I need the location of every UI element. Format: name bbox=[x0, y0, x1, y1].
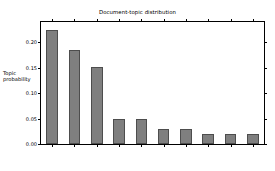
y-tick-mark bbox=[264, 42, 267, 43]
x-tick-mark bbox=[208, 19, 209, 22]
bar bbox=[180, 129, 192, 144]
y-tick-mark bbox=[38, 119, 41, 120]
x-tick-mark bbox=[186, 19, 187, 22]
bar bbox=[46, 30, 58, 144]
plot-area: 0.000.050.100.150.20AutomobileArtificial… bbox=[40, 21, 265, 145]
x-tick-mark bbox=[74, 19, 75, 22]
bar bbox=[113, 119, 125, 144]
x-tick-mark bbox=[141, 144, 142, 147]
bar bbox=[136, 119, 148, 144]
y-tick-label: 0.20 bbox=[26, 39, 37, 45]
y-tick-label: 0.00 bbox=[26, 141, 37, 147]
y-axis-label: Topic probability bbox=[3, 70, 37, 82]
x-tick-mark bbox=[253, 19, 254, 22]
chart-title: Document-topic distribution bbox=[0, 9, 275, 15]
x-tick-mark bbox=[97, 144, 98, 147]
y-tick-mark bbox=[38, 93, 41, 94]
y-tick-label: 0.10 bbox=[26, 90, 37, 96]
x-tick-mark bbox=[253, 144, 254, 147]
y-tick-label: 0.05 bbox=[26, 116, 37, 122]
y-tick-label: 0.15 bbox=[26, 65, 37, 71]
bar bbox=[202, 134, 214, 144]
x-tick-mark bbox=[231, 19, 232, 22]
x-tick-mark bbox=[231, 144, 232, 147]
x-tick-mark bbox=[164, 144, 165, 147]
bar bbox=[247, 134, 259, 144]
bar bbox=[91, 67, 103, 144]
bar bbox=[69, 50, 81, 144]
y-tick-mark bbox=[38, 42, 41, 43]
bar bbox=[225, 134, 237, 144]
chart-figure: Document-topic distribution Topic probab… bbox=[0, 0, 275, 171]
x-tick-mark bbox=[52, 19, 53, 22]
y-tick-mark bbox=[264, 144, 267, 145]
plot-inner: 0.000.050.100.150.20AutomobileArtificial… bbox=[41, 22, 264, 144]
y-tick-mark bbox=[38, 68, 41, 69]
x-tick-mark bbox=[186, 144, 187, 147]
y-tick-mark bbox=[264, 68, 267, 69]
x-tick-mark bbox=[141, 19, 142, 22]
x-tick-mark bbox=[208, 144, 209, 147]
x-tick-mark bbox=[119, 144, 120, 147]
bar bbox=[158, 129, 170, 144]
y-tick-mark bbox=[38, 144, 41, 145]
x-tick-mark bbox=[119, 19, 120, 22]
y-tick-mark bbox=[264, 93, 267, 94]
x-tick-mark bbox=[97, 19, 98, 22]
x-tick-mark bbox=[164, 19, 165, 22]
y-tick-mark bbox=[264, 119, 267, 120]
x-tick-mark bbox=[52, 144, 53, 147]
x-tick-mark bbox=[74, 144, 75, 147]
